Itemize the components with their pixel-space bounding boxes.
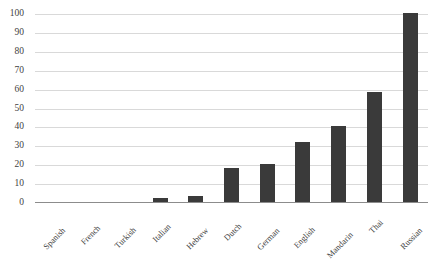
x-axis-label-slot: French (71, 204, 107, 255)
bar (224, 168, 239, 202)
bar-slot (357, 13, 393, 202)
y-axis-tick-label: 80 (15, 47, 25, 57)
y-axis-tick-label: 60 (15, 85, 25, 95)
x-axis-label-slot: German (249, 204, 285, 255)
bar (153, 198, 168, 202)
y-axis-tick-label: 10 (15, 179, 25, 189)
x-axis-tick-label-text: Russian (399, 226, 424, 251)
y-axis-tick-label: 90 (15, 28, 25, 38)
x-axis-label-slot: Russian (392, 204, 428, 255)
x-axis-label-slot: Mandarin (321, 204, 357, 255)
bar (331, 126, 346, 202)
y-axis-tick-label: 50 (15, 104, 25, 114)
x-axis-label-slot: Hebrew (178, 204, 214, 255)
y-axis-tick-label: 40 (15, 123, 25, 133)
x-axis-label-slot: Dutch (214, 204, 250, 255)
x-axis-label-slot: Italian (142, 204, 178, 255)
bar (367, 92, 382, 202)
bar-slot (178, 13, 214, 202)
bar-slot (71, 13, 107, 202)
bar-series (35, 14, 428, 203)
x-axis-label-slot: Spanish (35, 204, 71, 255)
bar-slot (214, 13, 250, 202)
y-axis: 1009080706050403020100 (0, 14, 30, 203)
bar (295, 142, 310, 202)
x-axis-tick-label-text: Italian (151, 222, 172, 243)
x-axis-category-labels: SpanishFrenchTurkishItalianHebrewDutchGe… (35, 204, 428, 255)
y-axis-tick-label: 0 (19, 198, 24, 208)
bar-slot (285, 13, 321, 202)
bar-slot (321, 13, 357, 202)
x-axis-tick-label-text: Hebrew (185, 226, 210, 251)
x-axis-label-slot: Turkish (106, 204, 142, 255)
x-axis-label-slot: Thai (357, 204, 393, 255)
bar-slot (142, 13, 178, 202)
x-axis-tick-label-text: Spanish (42, 226, 67, 251)
bar-slot (392, 13, 428, 202)
bar (260, 164, 275, 202)
y-axis-tick-label: 100 (10, 9, 24, 19)
x-axis-label-slot: English (285, 204, 321, 255)
bar-slot (35, 13, 71, 202)
x-axis-tick-label-text: Dutch (223, 222, 244, 243)
x-axis-tick-label: Russian (418, 207, 435, 232)
x-axis-tick-label-text: Turkish (113, 225, 138, 250)
x-axis-tick-label-text: Mandarin (325, 230, 354, 259)
bar (403, 13, 418, 202)
x-axis-tick-label-text: French (79, 224, 102, 247)
bar-slot (106, 13, 142, 202)
plot-area (35, 14, 428, 203)
x-axis-tick-label-text: English (292, 225, 316, 249)
x-axis-tick-label-text: Thai (368, 218, 385, 235)
y-axis-tick-label: 70 (15, 66, 25, 76)
y-axis-tick-label: 20 (15, 160, 25, 170)
bar-slot (249, 13, 285, 202)
bar (188, 196, 203, 202)
x-axis-tick-label-text: German (256, 226, 281, 251)
y-axis-tick-label: 30 (15, 142, 25, 152)
